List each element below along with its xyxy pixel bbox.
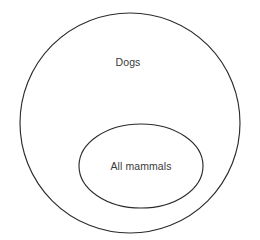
outer-set-label: Dogs — [116, 56, 141, 68]
nested-set-diagram: Dogs All mammals — [0, 0, 260, 240]
venn-diagram-canvas — [0, 0, 260, 240]
inner-set-label: All mammals — [110, 160, 171, 172]
